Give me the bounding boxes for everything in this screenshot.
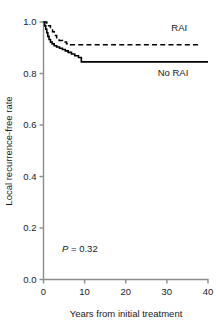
chart-annotations: P = 0.32 [62, 243, 98, 254]
annotation-p-value: = 0.32 [68, 243, 97, 254]
x-axis-tick-label: 20 [120, 286, 131, 297]
series-label-no-rai: No RAI [158, 67, 189, 78]
x-axis-title: Years from initial treatment [70, 308, 183, 319]
y-axis-tick-label: 1.0 [23, 16, 36, 27]
x-axis-tick-label: 30 [162, 286, 173, 297]
y-axis-tick-label: 0.6 [23, 119, 36, 130]
y-axis-title: Local recurrence-free rate [3, 96, 14, 205]
y-axis-tick-label: 0.4 [23, 171, 36, 182]
annotation-p-value: P = 0.32 [62, 243, 98, 254]
x-axis-tick-label: 0 [41, 286, 46, 297]
kaplan-meier-chart: 0.00.20.40.60.81.0 010203040 RAINo RAI P… [0, 0, 216, 327]
chart-canvas: 0.00.20.40.60.81.0 010203040 RAINo RAI P… [0, 0, 216, 327]
x-axis-tick-label: 10 [79, 286, 90, 297]
y-axis-tick-label: 0.2 [23, 222, 36, 233]
y-axis-tick-label: 0.8 [23, 68, 36, 79]
x-axis-tick-label: 40 [203, 286, 214, 297]
series-label-rai: RAI [171, 22, 187, 33]
y-axis-tick-label: 0.0 [23, 274, 36, 285]
